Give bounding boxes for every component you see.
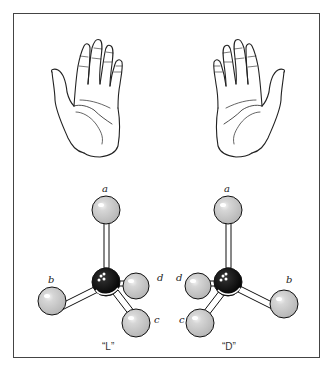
label-L-c: c: [154, 314, 160, 325]
molecule-L: [38, 196, 150, 337]
right-hand-drawing: [214, 39, 285, 157]
atom-c: [122, 309, 150, 337]
caption-D: “D”: [222, 341, 236, 352]
atom-b: [270, 290, 298, 318]
left-hand-drawing: [51, 39, 122, 157]
atom-d: [185, 273, 211, 299]
label-L-a: a: [102, 183, 108, 194]
carbon-center: [214, 268, 242, 296]
label-D-c: c: [179, 314, 185, 325]
figure-canvas: [0, 0, 334, 371]
atom-c: [186, 309, 214, 337]
label-L-d: d: [157, 272, 163, 283]
atom-d: [123, 273, 149, 299]
carbon-center: [92, 268, 120, 296]
atom-b: [38, 287, 66, 315]
label-D-a: a: [224, 183, 230, 194]
caption-L: “L”: [102, 341, 114, 352]
label-L-b: b: [48, 274, 54, 285]
label-D-d: d: [176, 272, 182, 283]
atom-a: [214, 196, 242, 224]
label-D-b: b: [286, 274, 292, 285]
atom-a: [92, 196, 120, 224]
molecule-D: [185, 196, 298, 337]
